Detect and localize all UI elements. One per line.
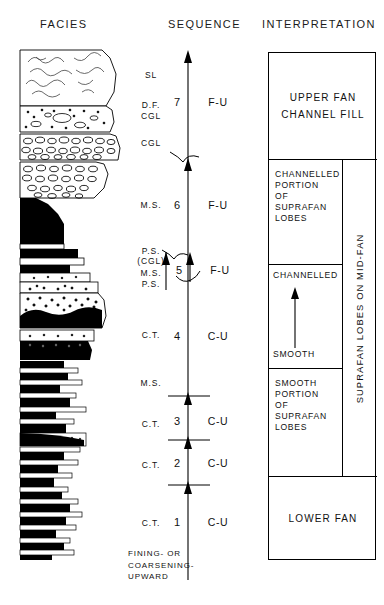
interpretation-text: SUPRAFAN <box>275 202 342 213</box>
facies-label: M.S. <box>128 378 174 388</box>
sequence-legend-line: COARSENING- <box>128 560 228 572</box>
interpretation-text: LOBES <box>275 213 342 224</box>
facies-label: P.S. <box>128 246 174 256</box>
interpretation-text: CHANNELLED <box>273 270 338 281</box>
suprafan-vertical-label: SUPRAFAN LOBES ON MID-FAN <box>344 160 376 476</box>
facies-label: CGL <box>128 111 174 121</box>
interpretation-text: CHANNEL FILL <box>281 106 364 123</box>
interpretation-text: OF <box>275 191 342 202</box>
sequence-number: 6 <box>166 199 188 211</box>
sequence-trend: F-U <box>196 199 240 211</box>
interpretation-box-upper-fan-channel-fill: UPPER FANCHANNEL FILL <box>269 53 377 159</box>
interpretation-text: SMOOTH <box>273 349 315 360</box>
facies-label: P.S. <box>128 279 174 289</box>
sequence-number: 2 <box>166 457 188 469</box>
interpretation-text: PORTION <box>275 389 342 400</box>
sequence-trend: C-U <box>196 457 240 469</box>
sequence-legend-line: FINING- OR <box>128 548 228 560</box>
interpretation-text: SUPRAFAN <box>275 411 342 422</box>
sequence-number: 4 <box>166 330 188 342</box>
sequence-trend: C-U <box>196 330 240 342</box>
sequence-trend: C-U <box>196 516 240 528</box>
sequence-number: 1 <box>166 516 188 528</box>
facies-label: SL <box>128 70 174 80</box>
interpretation-text: PORTION <box>275 180 342 191</box>
column-header-sequence: SEQUENCE <box>168 18 241 30</box>
interpretation-box-channelled-to-smooth: CHANNELLEDSMOOTH <box>269 264 342 368</box>
interpretation-text: LOWER FAN <box>289 510 358 527</box>
upward-trend-arrow-icon <box>285 286 305 348</box>
interpretation-text: OF <box>275 400 342 411</box>
facies-label: CGL <box>128 138 174 148</box>
sequence-legend: FINING- ORCOARSENING-UPWARD <box>128 548 228 583</box>
interpretation-box-lower-fan: LOWER FAN <box>269 476 377 561</box>
sequence-number: 5 <box>168 264 190 276</box>
lithology-log <box>18 48 126 558</box>
interpretation-text: CHANNELLED <box>275 169 342 180</box>
sequence-trend: F-U <box>196 96 240 108</box>
interpretation-box-channelled-portion-suprafan-lobes: CHANNELLEDPORTIONOFSUPRAFANLOBES <box>269 159 342 264</box>
column-header-interpretation: INTERPRETATION <box>262 18 376 30</box>
sequence-trend: C-U <box>196 415 240 427</box>
sequence-legend-line: UPWARD <box>128 571 228 583</box>
interpretation-text: UPPER FAN <box>290 89 357 106</box>
sequence-number: 3 <box>166 415 188 427</box>
interpretation-box-smooth-portion-suprafan-lobes: SMOOTHPORTIONOFSUPRAFANLOBES <box>269 368 342 476</box>
interpretation-text: SMOOTH <box>275 378 342 389</box>
suprafan-vertical-label-text: SUPRAFAN LOBES ON MID-FAN <box>355 233 366 403</box>
sequence-trend: F-U <box>198 264 242 276</box>
column-header-facies: FACIES <box>40 18 88 30</box>
interpretation-text: LOBES <box>275 422 342 433</box>
sequence-number: 7 <box>166 96 188 108</box>
interpretation-vertical-divider <box>342 159 343 476</box>
